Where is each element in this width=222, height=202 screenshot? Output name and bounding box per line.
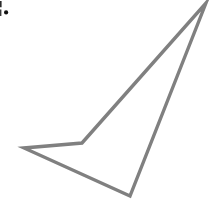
quadrilateral-outline-path	[24, 3, 206, 196]
drawing-canvas	[0, 0, 222, 202]
quadrilateral-outline-svg	[0, 0, 222, 202]
